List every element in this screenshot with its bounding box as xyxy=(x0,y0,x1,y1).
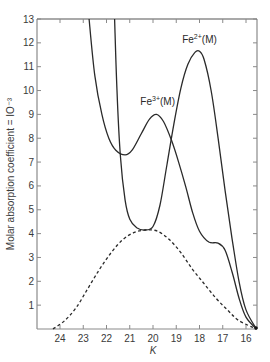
x-tick-label: 17 xyxy=(217,333,229,344)
annotation-2plus: Fe2+(M) xyxy=(182,33,217,45)
y-tick-label: 4 xyxy=(28,228,34,239)
axes-frame xyxy=(37,19,257,329)
y-tick-label: 10 xyxy=(23,85,35,96)
y-tick-label: 12 xyxy=(23,37,35,48)
spectrum-curves xyxy=(53,19,258,330)
y-tick-label: 6 xyxy=(28,180,34,191)
x-axis-label: K xyxy=(150,345,158,356)
y-tick-label: 5 xyxy=(28,204,34,215)
x-tick-label: 21 xyxy=(124,333,136,344)
absorption-spectrum-chart: 12345678910111213242322212019181716KMola… xyxy=(0,0,270,362)
x-tick-label: 22 xyxy=(101,333,113,344)
y-tick-label: 1 xyxy=(28,300,34,311)
chart-labels: 12345678910111213242322212019181716KMola… xyxy=(5,14,252,357)
y-tick-label: 7 xyxy=(28,157,34,168)
x-tick-label: 23 xyxy=(78,333,90,344)
y-tick-label: 9 xyxy=(28,109,34,120)
y-tick-label: 11 xyxy=(24,61,35,72)
x-tick-label: 16 xyxy=(240,333,252,344)
y-tick-label: 3 xyxy=(28,252,34,263)
y-tick-label: 2 xyxy=(28,276,34,287)
x-tick-label: 19 xyxy=(171,333,183,344)
annotation-3plus: Fe3+(M) xyxy=(140,95,175,107)
series-1-curve xyxy=(89,19,256,329)
convergence-point xyxy=(254,326,258,330)
y-axis-label: Molar absorption coefficient = IO⁻³ xyxy=(5,97,16,250)
y-tick-label: 8 xyxy=(28,133,34,144)
x-tick-label: 20 xyxy=(147,333,159,344)
y-tick-label: 13 xyxy=(23,14,35,25)
x-tick-label: 18 xyxy=(194,333,206,344)
series-3-curve xyxy=(53,230,257,329)
x-tick-label: 24 xyxy=(54,333,66,344)
